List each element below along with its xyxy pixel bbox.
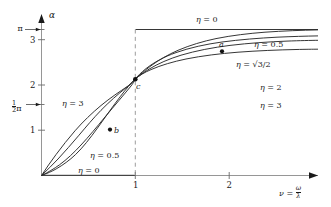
point-label-c: c: [136, 83, 140, 91]
eta-value: 0: [95, 166, 100, 175]
x-axis-variable: ν: [279, 189, 284, 198]
eta-value: 3: [79, 99, 84, 108]
eta-symbol: η: [78, 166, 83, 175]
y-tick-label-pi: π: [18, 25, 23, 33]
data-point-a: [220, 49, 224, 53]
curve-label-eta-05-left: η = 0.5: [90, 152, 119, 160]
pi-pointer-arrow: [25, 28, 41, 32]
curve-label-eta-sqrt3-over-2: η = √3/2: [236, 61, 271, 69]
pi-over-2-pointer-arrow: [26, 103, 41, 107]
curve-label-eta-05-right: η = 0.5: [254, 41, 283, 49]
eta-symbol: η: [90, 151, 95, 160]
eta-symbol: η: [236, 60, 241, 69]
point-label-b: b: [114, 127, 119, 135]
y-tick-label-2: 2: [30, 81, 35, 90]
eta-symbol: η: [62, 99, 67, 108]
lambda-symbol: λ: [296, 192, 301, 200]
equals-sign: =: [97, 151, 104, 160]
data-point-c: [133, 77, 138, 82]
equals-sign: =: [261, 40, 268, 49]
y-tick-label-1: 1: [30, 126, 35, 135]
equals-sign: =: [267, 101, 274, 110]
point-label-a: a: [219, 41, 224, 49]
eta-value: 3: [277, 101, 282, 110]
curve-label-eta-2-right: η = 2: [260, 84, 282, 92]
data-point-b: [108, 128, 112, 132]
curve-label-eta-0-bottom: η = 0: [78, 167, 100, 175]
equals-sign: =: [243, 60, 250, 69]
eta-value: √3/2: [253, 60, 271, 69]
y-axis-label: α: [49, 11, 55, 20]
equals-sign: =: [203, 15, 210, 24]
x-axis-equals: =: [286, 189, 293, 198]
equals-sign: =: [69, 99, 76, 108]
x-tick-label-2: 2: [227, 181, 232, 190]
curve-eta-3: [42, 49, 319, 175]
eta-symbol: η: [254, 40, 259, 49]
y-axis: [38, 14, 44, 176]
eta-symbol: η: [260, 83, 265, 92]
eta-value: 2: [277, 83, 282, 92]
eta-value: 0.5: [107, 151, 120, 160]
eta-symbol: η: [260, 101, 265, 110]
x-axis-label: ν = ω λ: [279, 185, 301, 200]
eta-value: 0: [213, 15, 218, 24]
omega-symbol: ω: [296, 185, 301, 192]
equals-sign: =: [267, 83, 274, 92]
y-tick-label-half-pi: 1 2 π: [12, 100, 21, 115]
x-tick-label-1: 1: [133, 181, 138, 190]
eta-value: 0.5: [271, 40, 284, 49]
curve-label-eta-3-right: η = 3: [260, 102, 282, 110]
pi-symbol: π: [18, 24, 23, 33]
omega-over-lambda-fraction: ω λ: [296, 185, 301, 200]
curve-label-eta-3-left: η = 3: [62, 100, 84, 108]
equals-sign: =: [85, 166, 92, 175]
half-pi-symbol: π: [16, 103, 21, 112]
eta-symbol: η: [196, 15, 201, 24]
curve-label-eta-0-top: η = 0: [196, 16, 218, 24]
y-tick-label-3: 3: [30, 36, 35, 45]
